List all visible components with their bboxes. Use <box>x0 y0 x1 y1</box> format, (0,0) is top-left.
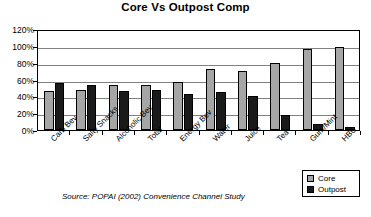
chart-container: Core Vs Outpost Comp 120%100%80%60%40%20… <box>0 0 371 217</box>
bar-core-gum-mint <box>303 49 313 130</box>
bar-core-water <box>206 69 216 130</box>
legend-swatch-core-icon <box>307 175 314 182</box>
legend: Core Outpost <box>302 170 360 197</box>
y-axis-tick-label: 100% <box>0 42 34 52</box>
bar-core-juice <box>238 71 248 130</box>
x-axis-tick-mark <box>360 131 361 135</box>
chart-title: Core Vs Outpost Comp <box>0 1 371 13</box>
x-axis-tick-mark <box>69 131 70 135</box>
bar-core-salty-snacks <box>76 90 86 130</box>
legend-swatch-outpost-icon <box>307 186 314 193</box>
bar-core-carb-bev <box>44 91 54 130</box>
bar-outpost-tea <box>281 115 291 130</box>
x-axis-tick-mark <box>328 131 329 135</box>
x-axis-tick-mark <box>102 131 103 135</box>
legend-item-outpost: Outpost <box>307 185 346 194</box>
x-axis-tick-mark <box>231 131 232 135</box>
bar-core-energy-bev <box>173 82 183 130</box>
y-axis-tick-label: 60% <box>0 76 34 86</box>
y-axis-tick-label: 80% <box>0 59 34 69</box>
legend-label-outpost: Outpost <box>318 185 346 194</box>
y-axis-tick-mark <box>33 131 37 132</box>
y-axis-tick-label: 20% <box>0 109 34 119</box>
x-axis-tick-mark <box>295 131 296 135</box>
legend-label-core: Core <box>318 174 335 183</box>
x-axis-tick-mark <box>263 131 264 135</box>
y-axis-tick-label: 0% <box>0 126 34 136</box>
y-axis-tick-label: 40% <box>0 92 34 102</box>
x-axis-tick-mark <box>166 131 167 135</box>
x-axis-tick-mark <box>134 131 135 135</box>
source-note: Source: POPAI (2002) Convenience Channel… <box>62 192 245 201</box>
bar-core-tea <box>270 63 280 130</box>
y-axis-tick-label: 120% <box>0 25 34 35</box>
x-axis-tick-mark <box>199 131 200 135</box>
legend-item-core: Core <box>307 174 335 183</box>
